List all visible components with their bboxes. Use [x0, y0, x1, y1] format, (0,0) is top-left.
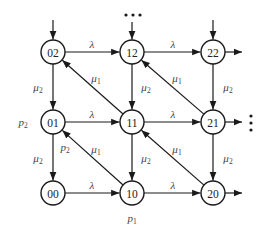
rate-label: μ1 — [171, 143, 182, 157]
transition-21-to-12 — [141, 60, 203, 114]
rate-label: μ2 — [140, 81, 151, 95]
rate-label: μ2 — [32, 81, 43, 95]
ellipsis-dots — [124, 13, 252, 131]
ellipsis-vertical-dot — [249, 121, 252, 124]
rate-label: λ — [170, 108, 176, 120]
state-node-02: 02 — [41, 40, 65, 64]
state-label: 02 — [47, 47, 59, 59]
rate-label: μ2 — [140, 152, 151, 166]
rate-label: μ2 — [32, 152, 43, 166]
state-node-20: 20 — [201, 181, 225, 205]
rate-label: p2 — [17, 116, 28, 130]
ellipsis-horizontal-dot — [131, 13, 134, 16]
rate-label: p1 — [126, 212, 137, 226]
state-label: 22 — [207, 47, 219, 59]
rate-label: p2 — [59, 141, 70, 155]
state-node-01: 01 — [41, 110, 65, 134]
state-node-10: 10 — [120, 181, 144, 205]
rate-label: λ — [89, 38, 95, 50]
rate-label: μ1 — [90, 143, 101, 157]
transition-11-to-02 — [62, 60, 123, 114]
rate-label: λ — [170, 38, 176, 50]
rate-label: λ — [89, 179, 95, 191]
state-label: 11 — [126, 117, 137, 129]
transition-10-to-01 — [62, 130, 123, 185]
state-transition-diagram: λλλλλλμ2μ2μ2μ2μ2μ2μ1μ1μ1μ1p2p2p1 0212220… — [0, 0, 269, 237]
state-node-21: 21 — [201, 110, 225, 134]
state-node-11: 11 — [120, 110, 144, 134]
state-node-22: 22 — [201, 40, 225, 64]
state-label: 21 — [207, 117, 219, 129]
rate-label: μ1 — [171, 72, 182, 86]
rate-label: λ — [89, 108, 95, 120]
state-label: 20 — [207, 188, 219, 200]
rate-label: λ — [170, 179, 176, 191]
ellipsis-horizontal-dot — [124, 13, 127, 16]
transition-20-to-11 — [141, 130, 204, 185]
state-node-12: 12 — [120, 40, 144, 64]
ellipsis-vertical-dot — [249, 128, 252, 131]
state-label: 00 — [47, 188, 59, 200]
state-label: 10 — [126, 188, 138, 200]
rate-label: μ2 — [222, 152, 233, 166]
ellipsis-vertical-dot — [249, 114, 252, 117]
state-label: 12 — [126, 47, 138, 59]
ellipsis-horizontal-dot — [138, 13, 141, 16]
rate-label: μ1 — [90, 72, 101, 86]
state-label: 01 — [47, 117, 59, 129]
state-node-00: 00 — [41, 181, 65, 205]
rate-label: μ2 — [222, 81, 233, 95]
